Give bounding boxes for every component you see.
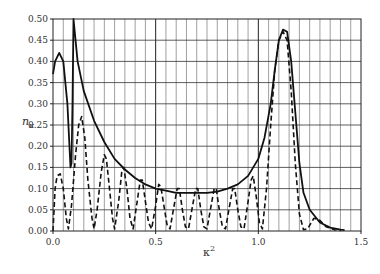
x-tick-label: 0.5 — [149, 237, 164, 247]
y-tick-label: 0.10 — [28, 184, 48, 194]
y-tick-label: 0.40 — [28, 56, 48, 66]
x-tick-label: 1.5 — [354, 237, 369, 247]
y-tick-label: 0.00 — [28, 226, 48, 236]
y-tick-label: 0.35 — [28, 78, 48, 88]
x-axis-ticks: 0.00.51.01.5 — [46, 231, 369, 247]
y-tick-label: 0.50 — [28, 14, 48, 24]
chart: 0.000.050.100.150.200.250.300.350.400.45… — [0, 0, 380, 274]
y-tick-label: 0.20 — [28, 141, 48, 151]
y-tick-label: 0.45 — [28, 35, 48, 45]
y-axis-label: nκ — [22, 115, 35, 130]
x-tick-label: 0.0 — [46, 237, 61, 247]
y-tick-label: 0.05 — [28, 205, 48, 215]
grid-lines — [53, 19, 361, 231]
x-axis-label: κ2 — [203, 244, 215, 259]
y-tick-label: 0.30 — [28, 99, 48, 109]
x-tick-label: 1.0 — [251, 237, 266, 247]
y-tick-label: 0.15 — [28, 162, 48, 172]
